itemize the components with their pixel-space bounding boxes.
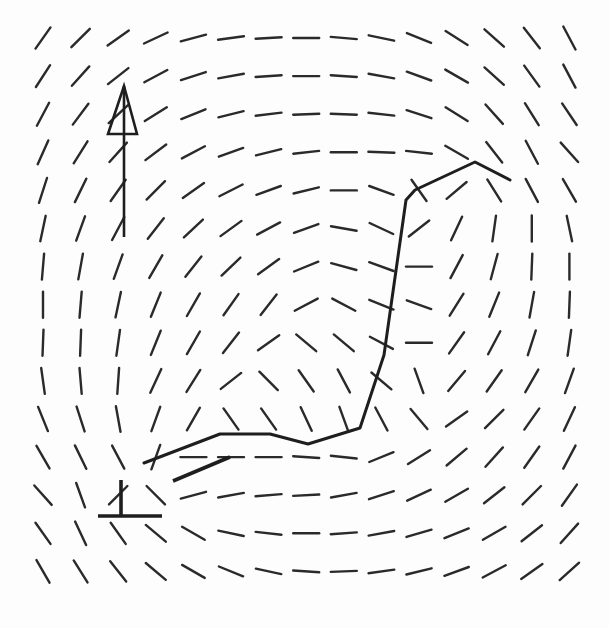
field-segment [181, 35, 206, 42]
field-segment [182, 146, 205, 158]
field-segment [523, 486, 541, 504]
field-segment [182, 565, 205, 578]
field-segment [446, 412, 467, 427]
field-segment [36, 27, 51, 48]
field-segment [483, 565, 506, 577]
field-segment [181, 72, 206, 80]
field-segment [415, 369, 424, 393]
field-segment [369, 491, 394, 499]
field-segment [331, 456, 357, 459]
trajectory-path [144, 162, 510, 463]
field-segment [446, 107, 468, 121]
field-segment [185, 256, 201, 276]
field-segment [491, 254, 498, 279]
field-segment [219, 567, 243, 577]
field-segment [108, 68, 128, 84]
field-segment [144, 33, 168, 44]
field-segment [406, 151, 432, 154]
field-segment [187, 332, 200, 355]
field-segment [561, 524, 578, 543]
field-segment [369, 262, 393, 271]
field-segment [43, 330, 44, 356]
field-segment [293, 495, 319, 496]
field-segment [187, 370, 201, 392]
field-segment [568, 330, 572, 356]
field-segment [187, 293, 200, 316]
field-segment [301, 407, 312, 431]
field-segment [116, 406, 121, 432]
diagram-svg [0, 0, 609, 628]
field-segment [528, 330, 536, 355]
field-segment [293, 571, 319, 573]
field-segment [77, 407, 85, 432]
field-segment [338, 369, 350, 392]
field-segment [294, 187, 319, 193]
field-segment [368, 152, 394, 153]
field-segment [531, 254, 532, 280]
field-segment [183, 183, 204, 198]
field-segment [72, 66, 89, 85]
field-segment [147, 181, 165, 199]
field-segment [484, 487, 504, 503]
field-segment [524, 28, 540, 48]
field-segment [407, 300, 431, 309]
field-segment [486, 142, 502, 162]
field-segment [145, 107, 167, 121]
field-segment [75, 445, 86, 468]
field-segment [221, 373, 241, 389]
field-segment [109, 486, 127, 504]
field-segment [40, 216, 45, 241]
field-segment [562, 103, 577, 125]
field-segment [445, 70, 468, 83]
field-segment [38, 140, 49, 164]
field-segment [151, 407, 160, 431]
field-segment [296, 334, 316, 351]
field-segment [80, 368, 82, 394]
field-segment [110, 561, 126, 581]
field-segment [257, 222, 280, 234]
field-segment [451, 217, 462, 241]
field-segment [334, 334, 354, 351]
field-segment [447, 182, 467, 199]
field-segment [331, 493, 357, 498]
field-segment [114, 254, 123, 278]
field-segment [526, 141, 538, 164]
field-segment [39, 178, 47, 203]
field-segment [524, 447, 539, 468]
field-segment [445, 489, 468, 502]
field-segment [256, 113, 282, 116]
field-segment [148, 218, 164, 238]
field-segment [187, 408, 200, 431]
base-marker-icon [98, 480, 162, 517]
field-segment [451, 255, 463, 278]
field-segment [224, 408, 239, 429]
field-segment [407, 530, 432, 537]
field-segment [218, 36, 244, 40]
field-segment [256, 149, 281, 155]
field-segment [149, 255, 162, 278]
field-segment [525, 370, 538, 393]
field-segment [112, 217, 124, 240]
field-segment [37, 560, 50, 583]
field-segment [299, 370, 314, 391]
field-segment [78, 254, 83, 280]
field-segment [562, 485, 577, 506]
field-segment [485, 67, 504, 84]
field-segment [184, 220, 203, 238]
field-segment [259, 372, 277, 390]
field-segment [38, 407, 48, 431]
field-segment [293, 151, 319, 154]
field-segment [492, 216, 496, 242]
field-segment [485, 29, 504, 46]
field-segment [36, 523, 51, 544]
field-segment [407, 110, 432, 118]
field-segment [256, 494, 282, 496]
field-segment [182, 527, 205, 540]
field-segment [144, 70, 167, 82]
field-segment [489, 293, 499, 317]
field-segment [487, 179, 501, 201]
field-segment [449, 332, 464, 353]
field-segment [256, 532, 282, 535]
field-segment [145, 145, 166, 161]
field-segment [563, 65, 575, 88]
